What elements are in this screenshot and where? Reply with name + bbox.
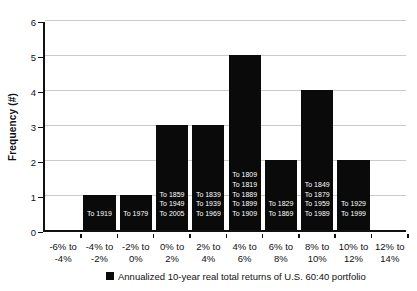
y-tick-label: 2 [20,157,36,168]
bar: To 1919 [83,195,115,230]
x-tick-mark [226,234,228,238]
bar-year-label: To 1969 [196,209,221,219]
x-category-label: 2% to4% [190,241,226,264]
y-tick-mark [38,22,43,24]
bar-year-label: To 1909 [232,209,257,219]
x-tick-mark [189,234,191,238]
y-tick-label: 1 [20,192,36,203]
y-tick-mark [38,232,43,234]
x-category-label: -6% to-4% [45,241,81,264]
y-tick-label: 0 [20,227,36,238]
bar-year-label: To 1879 [305,190,330,200]
y-tick-label: 6 [20,17,36,28]
bar-year-label: To 1939 [196,199,221,209]
bar-year-label: To 1979 [123,209,148,219]
gridline [45,125,406,126]
bar-year-label: To 1809 [232,170,257,180]
legend-square-icon [106,272,114,280]
x-tick-mark [298,234,300,238]
bar-year-label: To 1869 [268,209,293,219]
x-category-label: 12% to14% [372,241,408,264]
x-category-label: -2% to0% [118,241,154,264]
legend-label: Annualized 10-year real total returns of… [118,271,366,282]
bar: To 1829To 1869 [265,160,297,230]
bar-year-label: To 1999 [341,209,366,219]
bar-year-label: To 1959 [305,199,330,209]
y-tick-label: 4 [20,87,36,98]
bar: To 1839To 1939To 1969 [192,125,224,230]
y-tick-mark [38,57,43,59]
y-tick-mark [38,92,43,94]
bar-year-label: To 1899 [232,199,257,209]
x-category-label: 8% to10% [299,241,335,264]
x-tick-mark [153,234,155,238]
x-tick-mark [407,234,409,238]
gridline [45,55,406,56]
histogram-chart: Frequency (#) To 1919To 1979To 1859To 19… [0,0,417,291]
bar-year-label: To 1849 [305,180,330,190]
x-axis-labels: -6% to-4%-4% to-2%-2% to0%0% to2%2% to4%… [45,241,408,264]
x-tick-mark [80,234,82,238]
bar: To 1809To 1819To 1889To 1899To 1909 [229,55,261,230]
bar-year-label: To 1889 [232,190,257,200]
y-axis-title: Frequency (#) [7,93,18,161]
bar: To 1929To 1999 [337,160,369,230]
legend: Annualized 10-year real total returns of… [106,271,366,282]
gridline [45,90,406,91]
bar-year-label: To 1929 [341,199,366,209]
y-tick-label: 3 [20,122,36,133]
x-category-label: 0% to2% [154,241,190,264]
x-category-label: 6% to8% [263,241,299,264]
gridline [45,20,406,21]
plot-area: To 1919To 1979To 1859To 1949To 2005To 18… [43,22,406,232]
x-category-label: -4% to-2% [81,241,117,264]
y-tick-mark [38,127,43,129]
x-tick-mark [262,234,264,238]
bar-year-label: To 1839 [196,190,221,200]
bar: To 1849To 1879To 1959To 1989 [301,90,333,230]
y-tick-label: 5 [20,52,36,63]
bar-year-label: To 2005 [160,209,185,219]
bar-year-label: To 1949 [160,199,185,209]
x-category-label: 4% to6% [226,241,262,264]
bar-year-label: To 1859 [160,190,185,200]
bar-year-label: To 1819 [232,180,257,190]
x-category-label: 10% to12% [335,241,371,264]
bar: To 1859To 1949To 2005 [156,125,188,230]
y-tick-mark [38,162,43,164]
bar-year-label: To 1919 [87,209,112,219]
bar-year-label: To 1829 [268,199,293,209]
y-tick-mark [38,197,43,199]
bar: To 1979 [120,195,152,230]
x-tick-mark [334,234,336,238]
x-tick-mark [117,234,119,238]
bar-year-label: To 1989 [305,209,330,219]
x-tick-mark [371,234,373,238]
